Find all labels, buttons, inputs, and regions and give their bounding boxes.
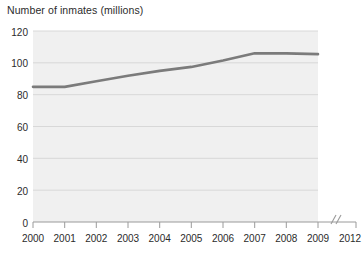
y-tick-label: 20 [17,186,29,197]
x-tick-label: 2009 [307,233,330,244]
axis-break-icon [331,215,341,224]
x-axis-ticks [33,222,356,228]
line-chart: 120 100 80 60 40 20 0 [0,0,363,255]
y-tick-label: 0 [22,218,28,229]
y-axis-labels: 120 100 80 60 40 20 0 [11,27,28,229]
y-tick-label: 80 [17,90,29,101]
x-axis-labels: 2000 2001 2002 2003 2004 2005 2006 2007 … [22,233,362,244]
x-tick-label: 2012 [339,233,362,244]
x-tick-label: 2003 [117,233,140,244]
x-tick-label: 2005 [180,233,203,244]
x-tick-label: 2006 [212,233,235,244]
y-tick-label: 120 [11,27,28,38]
y-tick-label: 60 [17,122,29,133]
x-tick-label: 2001 [54,233,77,244]
x-tick-label: 2004 [149,233,172,244]
y-tick-label: 100 [11,58,28,69]
y-tick-label: 40 [17,154,29,165]
x-tick-label: 2007 [244,233,267,244]
chart-container: Number of inmates (millions) 120 100 80 … [0,0,363,255]
x-tick-label: 2008 [275,233,298,244]
x-tick-label: 2002 [85,233,108,244]
x-tick-label: 2000 [22,233,45,244]
